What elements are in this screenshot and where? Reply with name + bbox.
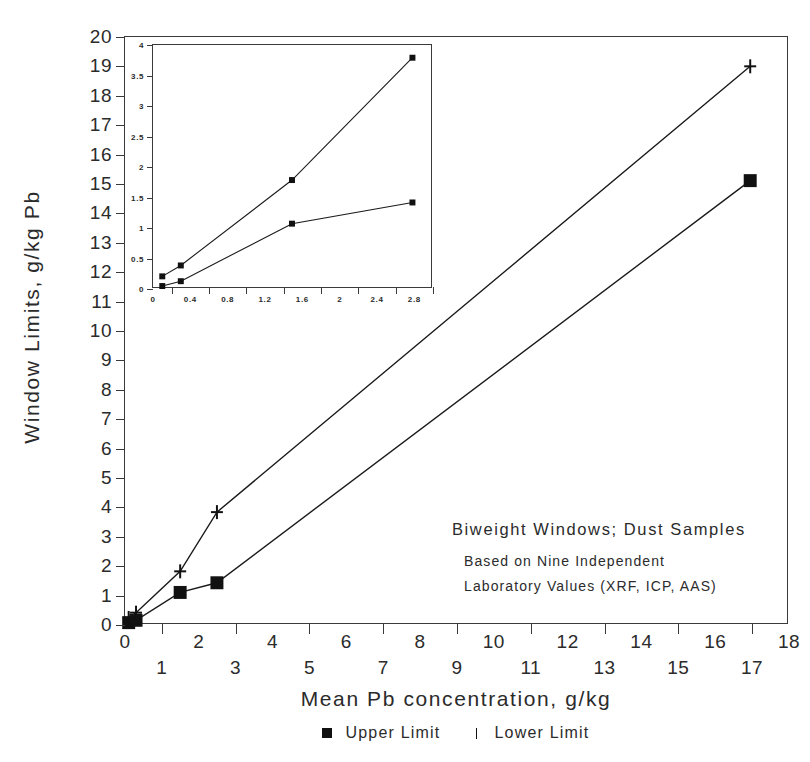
x-axis-tick-label: 6 bbox=[341, 631, 352, 653]
x-axis-tick bbox=[678, 623, 679, 634]
inset-y-axis-tick-label: 2 bbox=[139, 163, 144, 172]
inset-y-axis-tick-label: 3.5 bbox=[131, 71, 144, 80]
inset-x-axis-tick-label: 2.4 bbox=[371, 295, 384, 304]
y-axis-tick bbox=[116, 37, 125, 38]
x-axis-tick-label: 3 bbox=[230, 657, 241, 679]
x-axis-tick-label: 0 bbox=[119, 631, 130, 653]
data-point-marker bbox=[744, 59, 756, 73]
y-axis-tick bbox=[116, 537, 125, 538]
inset-x-axis-tick-label: 2 bbox=[337, 295, 342, 304]
y-axis-tick bbox=[116, 419, 125, 420]
x-axis-tick-label: 12 bbox=[557, 631, 579, 653]
x-axis-title: Mean Pb concentration, g/kg bbox=[124, 687, 788, 711]
inset-data-point-marker bbox=[159, 283, 165, 289]
x-axis-tick-label: 17 bbox=[741, 657, 763, 679]
x-axis-tick-label: 4 bbox=[267, 631, 278, 653]
inset-y-axis-tick bbox=[147, 228, 153, 229]
y-axis-tick bbox=[116, 302, 125, 303]
inset-y-axis-tick-label: 1 bbox=[139, 224, 144, 233]
y-axis-tick bbox=[116, 507, 125, 508]
y-axis-tick-label: 4 bbox=[101, 496, 112, 518]
y-axis-tick bbox=[116, 625, 125, 626]
inset-x-axis-tick bbox=[321, 287, 322, 294]
y-axis-tick-label: 18 bbox=[90, 85, 112, 107]
inset-y-axis-tick bbox=[147, 45, 153, 46]
inset-x-axis-tick bbox=[358, 287, 359, 294]
inset-y-axis-tick-label: 4 bbox=[139, 41, 144, 50]
y-axis-tick bbox=[116, 596, 125, 597]
annotation-line-2: Based on Nine Independent bbox=[464, 553, 752, 569]
y-axis-tick-label: 1 bbox=[101, 585, 112, 607]
y-axis-tick bbox=[116, 478, 125, 479]
x-axis-tick-label: 1 bbox=[156, 657, 167, 679]
y-axis-tick bbox=[116, 184, 125, 185]
x-axis-tick-label: 18 bbox=[778, 631, 800, 653]
x-axis-tick bbox=[531, 623, 532, 634]
x-axis-tick bbox=[383, 623, 384, 634]
inset-x-axis-tick-label: 1.2 bbox=[259, 295, 272, 304]
data-point-marker bbox=[744, 174, 757, 187]
x-axis-tick-label: 10 bbox=[483, 631, 505, 653]
annotation-line-3: Laboratory Values (XRF, ICP, AAS) bbox=[464, 578, 752, 594]
inset-plot-area: 00.511.522.533.5400.40.81.21.622.42.8 bbox=[152, 44, 432, 288]
inset-y-axis-tick-label: 2.5 bbox=[131, 132, 144, 141]
inset-data-point-marker bbox=[289, 221, 295, 227]
inset-y-axis-tick bbox=[147, 137, 153, 138]
inset-y-axis-tick-label: 3 bbox=[139, 102, 144, 111]
y-axis-tick-label: 15 bbox=[90, 173, 112, 195]
inset-data-layer bbox=[153, 45, 431, 287]
y-axis-tick-label: 19 bbox=[90, 55, 112, 77]
x-axis-tick-label: 9 bbox=[451, 657, 462, 679]
x-axis-tick-label: 13 bbox=[593, 657, 615, 679]
inset-series-line-lower-limit bbox=[162, 58, 412, 277]
filled-square-marker-icon bbox=[322, 728, 332, 738]
inset-y-axis-tick bbox=[147, 76, 153, 77]
inset-y-axis-tick bbox=[147, 198, 153, 199]
x-axis-tick-label: 7 bbox=[378, 657, 389, 679]
y-axis-tick-label: 9 bbox=[101, 349, 112, 371]
inset-y-axis-tick-label: 0.5 bbox=[131, 254, 144, 263]
x-axis-tick-label: 14 bbox=[630, 631, 652, 653]
inset-x-axis-tick-label: 0.4 bbox=[184, 295, 197, 304]
y-axis-tick bbox=[116, 125, 125, 126]
y-axis-tick-label: 7 bbox=[101, 408, 112, 430]
x-axis-tick-label: 16 bbox=[704, 631, 726, 653]
y-axis-tick-label: 10 bbox=[90, 320, 112, 342]
y-axis-tick-label: 6 bbox=[101, 438, 112, 460]
y-axis-tick-label: 5 bbox=[101, 467, 112, 489]
annotation-line-1: Biweight Windows; Dust Samples bbox=[452, 520, 752, 539]
y-axis-tick bbox=[116, 449, 125, 450]
inset-data-point-marker bbox=[409, 199, 415, 205]
x-axis-tick-label: 15 bbox=[667, 657, 689, 679]
chart-figure: Window Limits, g/kg Pb 01234567891011121… bbox=[0, 0, 810, 762]
inset-y-axis-tick bbox=[147, 167, 153, 168]
y-axis-tick-label: 2 bbox=[101, 555, 112, 577]
inset-data-point-marker bbox=[178, 262, 184, 268]
x-axis-tick bbox=[162, 623, 163, 634]
inset-x-axis-tick-label: 2.8 bbox=[408, 295, 421, 304]
legend-item-lower-limit: Lower Limit bbox=[471, 724, 590, 742]
y-axis-tick bbox=[116, 390, 125, 391]
x-axis-tick bbox=[752, 623, 753, 634]
inset-x-axis-tick-label: 0 bbox=[150, 295, 155, 304]
y-axis-tick-label: 16 bbox=[90, 144, 112, 166]
y-axis-tick bbox=[116, 331, 125, 332]
y-axis-tick bbox=[116, 213, 125, 214]
inset-data-point-marker bbox=[159, 273, 165, 279]
inset-x-axis-tick bbox=[172, 287, 173, 294]
inset-x-axis-tick bbox=[433, 287, 434, 294]
y-axis-tick-label: 3 bbox=[101, 526, 112, 548]
y-axis-tick-label: 11 bbox=[91, 291, 112, 313]
plus-marker-icon bbox=[471, 728, 482, 739]
inset-series-line-upper-limit bbox=[162, 202, 412, 286]
y-axis-tick bbox=[116, 272, 125, 273]
inset-x-axis-tick bbox=[209, 287, 210, 294]
inset-x-axis-tick-label: 0.8 bbox=[221, 295, 234, 304]
x-axis-tick-label: 5 bbox=[304, 657, 315, 679]
inset-data-point-marker bbox=[289, 177, 295, 183]
inset-x-axis-tick-label: 1.6 bbox=[296, 295, 309, 304]
y-axis-tick-label: 12 bbox=[90, 261, 112, 283]
y-axis-tick bbox=[116, 360, 125, 361]
y-axis-tick bbox=[116, 566, 125, 567]
data-point-marker bbox=[210, 576, 223, 589]
